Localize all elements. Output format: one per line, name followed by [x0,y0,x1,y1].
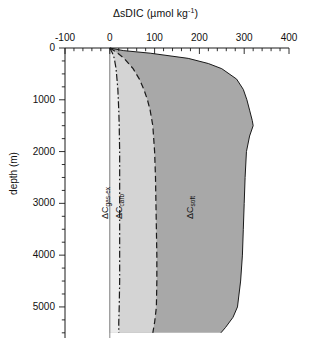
y-tick-label: 4000 [21,249,55,260]
y-tick-label: 5000 [21,301,55,312]
carb-label-subscript: carb [117,193,124,206]
y-tick-label: 2000 [21,146,55,157]
soft-label-base: ΔC [185,206,195,219]
carb-label-base: ΔC [114,206,124,219]
x-tick-label: 200 [179,32,219,43]
x-tick-label: 0 [90,32,130,43]
gas-ex-label: ΔCgas-ex [100,187,110,219]
carb-label: ΔCcarb [114,193,124,218]
gas-ex-label-subscript: gas-ex [104,187,111,207]
y-tick-label: 3000 [21,197,55,208]
y-tick-label: 1000 [21,94,55,105]
gas-ex-label-base: ΔC [100,206,110,219]
x-tick-label: 400 [269,32,309,43]
x-tick-label: 300 [224,32,264,43]
area-fills [110,48,253,333]
sdic-depth-profile-figure: ΔsDIC (µmol kg-1) depth (m) -10001002003… [0,0,311,349]
y-tick-label: 0 [21,42,55,53]
soft-label: ΔCsoft [185,196,195,219]
x-tick-label: 100 [135,32,175,43]
soft-label-subscript: soft [189,196,196,206]
